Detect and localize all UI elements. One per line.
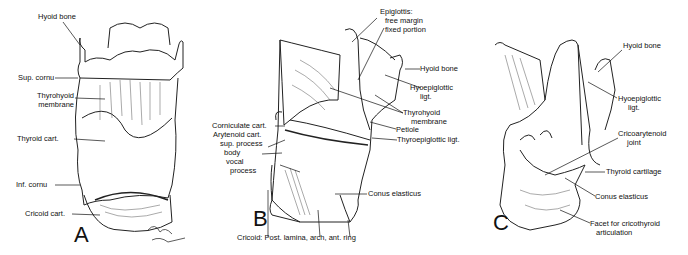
label-b-conus: Conus elasticus [368,190,421,199]
label-b-thyroepiglottic: Thyroepiglottic ligt. [397,136,460,145]
label-c-hyoepiglottic-2: ligt. [628,104,640,113]
larynx-illustration [0,0,688,255]
panel-c-drawing [495,40,615,230]
label-b-hyoid-bone: Hyoid bone [420,65,458,74]
label-a-thyrohyoid-2: membrane [14,101,74,110]
label-a-hyoid-bone: Hyoid bone [38,13,76,22]
panel-letter-a: A [74,222,89,248]
label-c-cricoarytenoid-1: Cricoarytenoid [618,130,666,139]
panel-letter-b: B [253,206,268,232]
label-b-fixed-portion: fixed portion [385,26,426,35]
signature-scribble [148,226,185,242]
label-c-hyoid-bone: Hyoid bone [623,42,661,51]
label-c-thyroid-cartilage: Thyroid cartilage [606,168,661,177]
label-a-sup-cornu: Sup. cornu [18,74,54,83]
label-c-cricoarytenoid-2: joint [627,139,641,148]
label-b-cricoid: Cricoid: Post. lamina, arch, ant. ring [237,234,356,243]
label-c-facet-2: articulation [596,229,632,238]
label-c-conus: Conus elasticus [595,193,648,202]
label-a-cricoid-cart: Cricoid cart. [25,210,65,219]
label-b-process: process [230,167,256,176]
label-a-inf-cornu: Inf. cornu [16,181,47,190]
panel-letter-c: C [493,210,509,236]
label-b-hyoepiglottic-2: ligt. [420,93,432,102]
panel-a-drawing [75,23,183,231]
leader-lines [55,18,622,237]
label-b-petiole: Petiole [396,126,419,135]
label-a-thyroid-cart: Thyroid cart. [17,135,59,144]
